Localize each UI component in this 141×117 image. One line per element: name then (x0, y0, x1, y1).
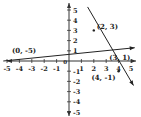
y-tick-label: 4 (73, 17, 78, 25)
origin-label: 0 (63, 59, 67, 65)
x-tick-label: -2 (41, 65, 48, 73)
x-tick-label: 2 (92, 65, 97, 73)
x-tick-label: 3 (104, 65, 109, 73)
x-tick-label: 5 (129, 65, 134, 73)
y-tick-label: -2 (73, 78, 80, 86)
x-axis-arrow-right-icon (131, 59, 136, 63)
y-tick-label: -3 (73, 88, 81, 96)
y-tick-label: 3 (73, 27, 78, 35)
coordinate-plane: -5-4-3-2-11234554321-1-2-3-4-50 (2, 3)(3… (0, 0, 141, 117)
point-label: (0, -5) (12, 46, 36, 55)
y-tick-label: 1 (73, 47, 78, 55)
point-label: (2, 3) (97, 22, 118, 31)
x-tick-label: 4 (116, 65, 121, 73)
point-label: (3, 1) (109, 53, 130, 62)
y-tick-label: -4 (73, 98, 81, 106)
x-tick-label: -1 (53, 65, 60, 73)
x-tick-label: -3 (28, 65, 36, 73)
data-point (93, 29, 95, 31)
y-tick-label: 5 (73, 7, 78, 15)
point-annotations: (2, 3)(3, 1)(4, -1)(0, -5) (12, 22, 130, 82)
x-tick-label: -4 (16, 65, 24, 73)
y-axis-arrow-up-icon (67, 3, 71, 8)
x-tick-label: -5 (3, 65, 11, 73)
y-tick-label: -1 (73, 68, 80, 76)
line-arrow-icon (129, 80, 133, 85)
point-label: (4, -1) (91, 73, 115, 82)
y-tick-label: 2 (73, 37, 78, 45)
y-tick-label: -5 (73, 109, 81, 117)
